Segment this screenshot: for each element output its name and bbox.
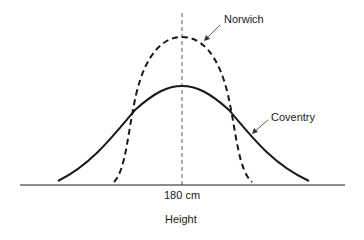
norwich-label: Norwich bbox=[224, 13, 264, 25]
x-tick-label: 180 cm bbox=[164, 189, 200, 201]
x-axis-label: Height bbox=[165, 213, 197, 225]
norwich-arrow bbox=[206, 25, 220, 39]
coventry-curve bbox=[58, 86, 309, 181]
coventry-label: Coventry bbox=[271, 111, 315, 123]
